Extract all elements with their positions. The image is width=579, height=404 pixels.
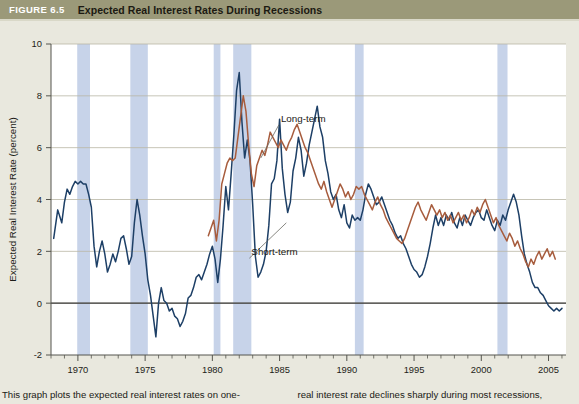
x-tick-label-1995: 1995 <box>404 364 425 375</box>
y-tick-label-10: 10 <box>32 38 42 49</box>
x-tick-label-1970: 1970 <box>67 364 88 375</box>
y-tick-label-0: 0 <box>37 298 42 309</box>
chart-area: -20246810 197019751980198519901995200020… <box>0 21 579 383</box>
y-tick-label-4: 4 <box>37 194 42 205</box>
caption-column-right: real interest rate declines sharply duri… <box>290 383 579 404</box>
y-tick-label-8: 8 <box>37 90 42 101</box>
x-tick-label-1985: 1985 <box>269 364 290 375</box>
caption-column-left: This graph plots the expected real inter… <box>0 383 290 404</box>
long-term-label: Long-term <box>281 113 326 124</box>
y-tick-labels-group: -20246810 <box>32 38 42 360</box>
y-tick-label-6: 6 <box>37 142 42 153</box>
x-tick-label-1980: 1980 <box>202 364 223 375</box>
x-tick-label-1975: 1975 <box>135 364 156 375</box>
x-tick-label-1990: 1990 <box>336 364 357 375</box>
line-chart: -20246810 197019751980198519901995200020… <box>0 21 579 383</box>
figure-number-label: FIGURE 6.5 <box>9 4 65 15</box>
figure-page: FIGURE 6.5 Expected Real Interest Rates … <box>0 0 579 404</box>
figure-header-band: FIGURE 6.5 Expected Real Interest Rates … <box>0 0 579 19</box>
short-term-label: Short-term <box>251 246 297 257</box>
x-tick-labels-group: 19701975198019851990199520002005 <box>67 364 558 375</box>
y-axis-title: Expected Real Interest Rate (percent) <box>7 117 18 281</box>
y-tick-label-2: 2 <box>37 246 42 257</box>
figure-title: Expected Real Interest Rates During Rece… <box>78 4 322 16</box>
x-tick-label-2000: 2000 <box>471 364 492 375</box>
y-tick-label--2: -2 <box>34 349 42 360</box>
figure-caption: This graph plots the expected real inter… <box>0 383 579 404</box>
x-tick-label-2005: 2005 <box>538 364 559 375</box>
